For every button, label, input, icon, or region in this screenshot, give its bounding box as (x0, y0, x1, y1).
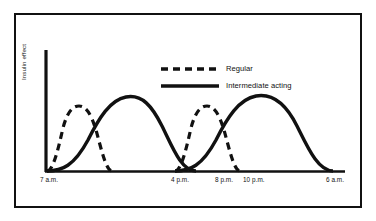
xtick-label-4pm: 4 p.m. (171, 176, 189, 183)
intermediate-curve-evening (175, 96, 333, 171)
xtick-label-7am: 7 a.m. (40, 176, 58, 183)
xtick-label-8pm: 8 p.m. (215, 176, 233, 183)
legend-label-regular: Regular (226, 64, 253, 73)
xtick-label-10pm: 10 p.m. (243, 176, 265, 183)
xtick-label-6am: 6 a.m. (326, 176, 344, 183)
intermediate-curve-morning (47, 97, 196, 171)
legend-label-intermediate: Intermediate acting (226, 81, 292, 90)
chart-plot-area (0, 0, 376, 221)
insulin-effect-chart-figure: Insulin effect Regular Intermediate acti… (0, 0, 376, 221)
